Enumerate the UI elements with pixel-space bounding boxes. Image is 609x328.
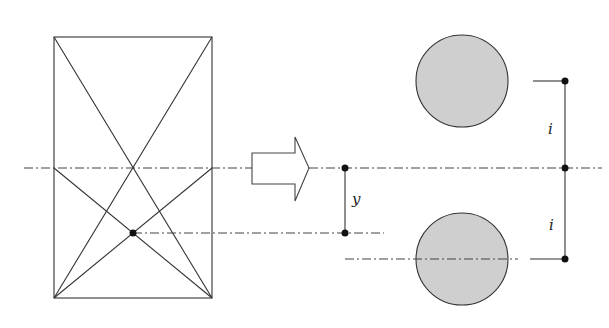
diagram-svg	[0, 0, 609, 328]
diagram-canvas: y i i	[0, 0, 609, 328]
i-top-label: i	[548, 122, 553, 137]
i-bottom-label: i	[549, 218, 554, 233]
dimension-dot	[562, 165, 569, 172]
dimension-dot	[562, 78, 569, 85]
top-circle-area	[416, 35, 508, 127]
dimension-dot	[342, 165, 349, 172]
y-label: y	[352, 192, 360, 207]
transform-arrow-icon	[252, 137, 309, 201]
dimension-dot	[342, 230, 349, 237]
dimension-dot	[562, 256, 569, 263]
centroid-dot	[130, 230, 137, 237]
